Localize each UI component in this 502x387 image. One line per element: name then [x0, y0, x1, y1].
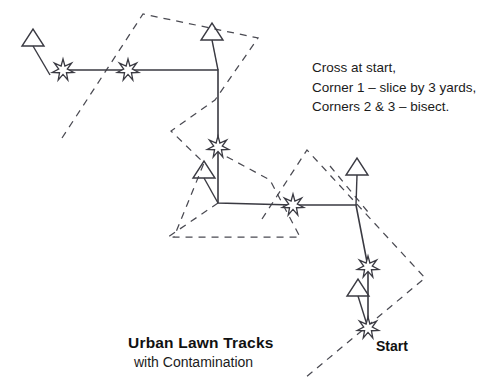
dashed-triangle-lower-left: [168, 152, 300, 237]
annotation-notes: Cross at start, Corner 1 – slice by 3 ya…: [312, 58, 476, 117]
triangle-flag-corner-2-tail: [204, 178, 218, 203]
triangle-flag-corner-1-glyph: [201, 23, 223, 40]
star-start: [357, 317, 378, 338]
triangle-flag-origin-tail: [33, 46, 50, 75]
triangle-flag-corner-2-glyph: [193, 161, 215, 178]
note-line-1: Cross at start,: [312, 58, 476, 78]
figure-canvas: Cross at start, Corner 1 – slice by 3 ya…: [0, 0, 502, 387]
triangle-flag-start-glyph: [347, 279, 369, 296]
note-line-3: Corners 2 & 3 – bisect.: [312, 97, 476, 117]
triangle-flag-corner-3-glyph: [346, 158, 368, 175]
start-label: Start: [376, 338, 408, 354]
figure-subtitle: with Contamination: [134, 354, 253, 370]
triangle-flag-corner-3-tail: [356, 175, 357, 205]
triangle-flag-origin: [22, 29, 50, 75]
triangle-flag-origin-glyph: [22, 29, 44, 46]
triangle-flag-corner-1-tail: [212, 40, 218, 70]
note-line-2: Corner 1 – slice by 3 yards,: [312, 78, 476, 98]
triangle-flag-start: [347, 279, 369, 328]
figure-title: Urban Lawn Tracks: [128, 334, 274, 352]
